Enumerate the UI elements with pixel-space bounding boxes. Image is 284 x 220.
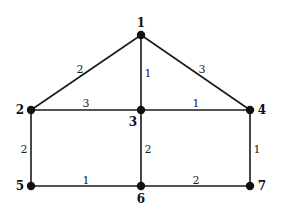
edge-weight-label: 1	[83, 175, 90, 186]
node-3	[137, 106, 145, 114]
edge-weight-label: 3	[199, 64, 206, 75]
node-label: 4	[258, 104, 266, 116]
edge-weight-label: 2	[77, 64, 84, 75]
edge-weight-label: 2	[193, 175, 200, 186]
edge-weight-label: 2	[145, 144, 152, 155]
node-label: 1	[137, 17, 145, 29]
node-label: 3	[129, 116, 137, 128]
edge-weight-label: 1	[193, 98, 200, 109]
edge-weight-label: 1	[145, 68, 152, 79]
node-label: 5	[16, 180, 24, 192]
node-label: 6	[137, 193, 145, 205]
graph-canvas	[0, 0, 284, 220]
node-label: 2	[16, 104, 24, 116]
node-label: 7	[258, 180, 266, 192]
edge-weight-label: 3	[83, 98, 90, 109]
edge-weight-label: 1	[254, 144, 261, 155]
node-2	[27, 106, 35, 114]
node-1	[137, 31, 145, 39]
edge-weight-label: 2	[21, 144, 28, 155]
node-7	[246, 182, 254, 190]
node-5	[27, 182, 35, 190]
node-6	[137, 182, 145, 190]
node-4	[246, 106, 254, 114]
